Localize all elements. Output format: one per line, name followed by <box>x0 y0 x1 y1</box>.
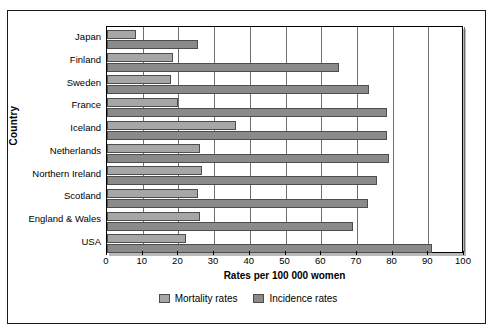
legend-item-mortality: Mortality rates <box>159 293 238 304</box>
y-tick-usa: USA <box>1 236 101 247</box>
bar-northern-ireland-mortality-rates <box>107 166 202 175</box>
legend-label: Mortality rates <box>175 293 238 304</box>
bar-group <box>107 163 462 186</box>
bar-england-wales-mortality-rates <box>107 212 200 221</box>
bar-group <box>107 95 462 118</box>
legend-item-incidence: Incidence rates <box>253 293 337 304</box>
legend-label: Incidence rates <box>269 293 337 304</box>
y-tick-finland: Finland <box>1 54 101 65</box>
x-tick-80: 80 <box>386 255 397 266</box>
bar-sweden-incidence-rates <box>107 85 369 94</box>
bar-northern-ireland-incidence-rates <box>107 176 377 185</box>
bar-iceland-incidence-rates <box>107 131 387 140</box>
y-tick-netherlands: Netherlands <box>1 145 101 156</box>
bar-usa-mortality-rates <box>107 234 186 243</box>
bar-group <box>107 186 462 209</box>
bar-sweden-mortality-rates <box>107 75 171 84</box>
bar-group <box>107 50 462 73</box>
bar-england-wales-incidence-rates <box>107 222 353 231</box>
legend-swatch-mortality-icon <box>159 294 170 303</box>
bar-group <box>107 72 462 95</box>
x-tick-0: 0 <box>103 255 108 266</box>
bar-group <box>107 27 462 50</box>
gridline-100 <box>464 27 465 252</box>
x-tick-100: 100 <box>455 255 471 266</box>
bar-france-mortality-rates <box>107 98 178 107</box>
x-tick-60: 60 <box>315 255 326 266</box>
y-axis-tick-labels: JapanFinlandSwedenFranceIcelandNetherlan… <box>0 26 101 253</box>
y-tick-sweden: Sweden <box>1 77 101 88</box>
y-tick-northern-ireland: Northern Ireland <box>1 168 101 179</box>
x-tick-90: 90 <box>422 255 433 266</box>
bar-series-container <box>107 27 462 252</box>
x-tick-40: 40 <box>244 255 255 266</box>
bar-france-incidence-rates <box>107 108 387 117</box>
x-axis-title: Rates per 100 000 women <box>106 270 463 281</box>
bar-group <box>107 118 462 141</box>
chart-figure: Country JapanFinlandSwedenFranceIcelandN… <box>0 0 496 335</box>
x-axis-tick-labels: 0102030405060708090100 <box>106 255 463 269</box>
y-tick-japan: Japan <box>1 31 101 42</box>
bar-scotland-incidence-rates <box>107 199 368 208</box>
bar-finland-mortality-rates <box>107 53 173 62</box>
plot-area <box>106 26 463 253</box>
bar-netherlands-mortality-rates <box>107 144 200 153</box>
bar-netherlands-incidence-rates <box>107 154 389 163</box>
y-tick-iceland: Iceland <box>1 122 101 133</box>
x-tick-10: 10 <box>136 255 147 266</box>
x-tick-50: 50 <box>279 255 290 266</box>
x-tick-70: 70 <box>351 255 362 266</box>
y-tick-france: France <box>1 99 101 110</box>
bar-group <box>107 209 462 232</box>
chart-legend: Mortality ratesIncidence rates <box>0 293 496 304</box>
x-tick-20: 20 <box>172 255 183 266</box>
bar-japan-incidence-rates <box>107 40 198 49</box>
bar-japan-mortality-rates <box>107 30 136 39</box>
bar-group <box>107 141 462 164</box>
bar-finland-incidence-rates <box>107 63 339 72</box>
bar-scotland-mortality-rates <box>107 189 198 198</box>
bar-usa-incidence-rates <box>107 244 432 253</box>
y-tick-england-wales: England & Wales <box>1 213 101 224</box>
legend-swatch-incidence-icon <box>253 294 264 303</box>
bar-iceland-mortality-rates <box>107 121 236 130</box>
y-tick-scotland: Scotland <box>1 190 101 201</box>
x-tick-30: 30 <box>208 255 219 266</box>
